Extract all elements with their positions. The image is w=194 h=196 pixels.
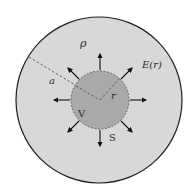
label-rho: ρ <box>79 37 87 50</box>
label-surface: S <box>109 132 116 143</box>
gauss-sphere-diagram: ρ E(r) a r V S <box>0 0 194 196</box>
label-volume: V <box>77 108 86 119</box>
label-field: E(r) <box>141 59 162 70</box>
label-radius-a: a <box>49 75 55 86</box>
